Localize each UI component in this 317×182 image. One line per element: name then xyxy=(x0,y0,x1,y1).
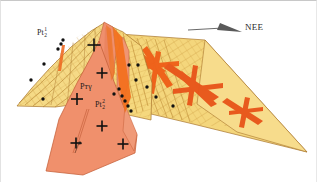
sample-dot xyxy=(59,42,62,45)
arrow-head xyxy=(217,23,242,32)
legend-direction-label: NEE xyxy=(245,22,263,32)
sample-dot xyxy=(127,63,130,66)
sample-dot xyxy=(171,104,174,107)
geological-block-diagram: Pt12 Pтγ Pt22 NEE xyxy=(0,0,317,182)
sample-dot xyxy=(61,38,64,41)
unit-label-pt2-gamma: Pтγ xyxy=(80,83,92,91)
sample-dot xyxy=(41,97,44,100)
sample-dot xyxy=(134,78,137,81)
unit-label-pt2-2-sub: 2 xyxy=(102,105,105,111)
sample-dot xyxy=(56,47,59,50)
sample-dot xyxy=(129,109,132,112)
sample-dot xyxy=(136,63,139,66)
unit-label-pt2-2-indices: 22 xyxy=(102,99,105,111)
unit-label-pt2-1-base: Pt xyxy=(37,28,44,37)
diagram-canvas xyxy=(1,1,317,182)
unit-label-pt2-2-base: Pt xyxy=(95,100,102,109)
sample-dot xyxy=(154,95,157,98)
sample-dot xyxy=(117,87,120,90)
unit-label-pt2-2: Pt22 xyxy=(95,99,105,111)
sample-dot xyxy=(29,78,32,81)
direction-arrow xyxy=(188,23,242,32)
sample-dot xyxy=(112,92,115,95)
unit-label-pt2-1-sub: 2 xyxy=(44,33,47,39)
unit-label-pt2-1-indices: 12 xyxy=(44,27,47,39)
sample-dot xyxy=(123,99,126,102)
sample-dot xyxy=(42,62,45,65)
sample-dot xyxy=(145,85,148,88)
sample-dot xyxy=(126,104,129,107)
sample-dot xyxy=(120,94,123,97)
unit-label-pt2-1: Pt12 xyxy=(37,27,47,39)
